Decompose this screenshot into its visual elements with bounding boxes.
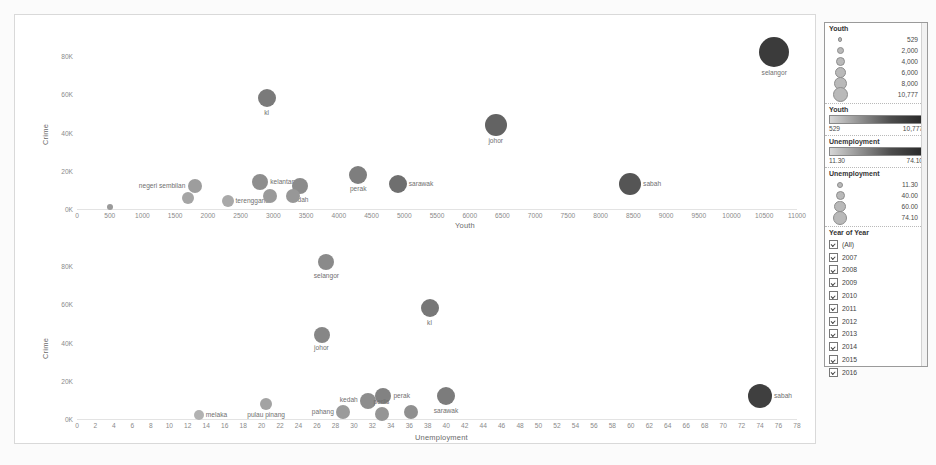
scatter-point[interactable] xyxy=(485,114,507,136)
youth-gradient-min: 529 xyxy=(829,125,840,132)
scatter-point[interactable] xyxy=(222,195,234,207)
checkbox-checked-icon[interactable] xyxy=(829,317,838,326)
checkbox-checked-icon[interactable] xyxy=(829,329,838,338)
scatter-point[interactable] xyxy=(389,175,407,193)
scatter-point-label: sarawak xyxy=(409,180,434,187)
year-filter-item[interactable]: 2013 xyxy=(829,328,923,341)
scatter-point-label: melaka xyxy=(206,411,227,418)
x-tick-label: 5500 xyxy=(430,212,445,219)
scatter-point-label: pulau pinang xyxy=(247,411,285,418)
x-tick-label: 14 xyxy=(203,422,210,429)
year-filter-item[interactable]: 2007 xyxy=(829,251,923,264)
scatter-point[interactable] xyxy=(748,384,772,408)
x-tick-label: 8 xyxy=(149,422,153,429)
size-value-label: 6,000 xyxy=(851,69,923,76)
scatter-point[interactable] xyxy=(437,387,455,405)
scatter-point[interactable] xyxy=(375,407,389,421)
x-tick-label: 4 xyxy=(112,422,116,429)
size-swatch xyxy=(829,211,851,225)
x-tick-label: 2 xyxy=(94,422,98,429)
legend-youth-gradient: Youth 529 10,777 xyxy=(825,104,927,136)
checkbox-checked-icon[interactable] xyxy=(829,304,838,313)
year-filter-item[interactable]: 2011 xyxy=(829,302,923,315)
scatter-point[interactable] xyxy=(336,405,350,419)
x-tick-label: 56 xyxy=(590,422,597,429)
y-tick-label: 60K xyxy=(47,91,73,98)
scatter-point[interactable] xyxy=(314,327,330,343)
x-tick-label: 6000 xyxy=(462,212,477,219)
scatter-point[interactable] xyxy=(188,179,202,193)
scatter-point-label: kedah xyxy=(340,396,358,403)
size-value-label: 4,000 xyxy=(851,58,923,65)
scatter-point[interactable] xyxy=(759,37,789,67)
scatter-point[interactable] xyxy=(318,254,334,270)
x-tick-label: 4500 xyxy=(364,212,379,219)
legend-scrollbar[interactable] xyxy=(921,23,927,366)
scatter-point[interactable] xyxy=(194,410,204,420)
scatter-point-label: perak xyxy=(350,185,367,192)
youth-size-row: 2,000 xyxy=(829,45,923,56)
scatter-point[interactable] xyxy=(349,166,367,184)
year-filter-label: 2011 xyxy=(842,305,857,312)
youth-size-row: 10,777 xyxy=(829,89,923,100)
year-filter-card[interactable]: Year of Year (All)2007200820092010201120… xyxy=(825,227,927,382)
x-tick-label: 2500 xyxy=(233,212,248,219)
x-tick-label: 42 xyxy=(461,422,468,429)
x-tick-label: 16 xyxy=(221,422,228,429)
scatter-point[interactable] xyxy=(404,405,418,419)
year-filter-item[interactable]: 2015 xyxy=(829,353,923,366)
x-tick-label: 26 xyxy=(313,422,320,429)
year-filter-label: 2014 xyxy=(842,343,857,350)
scatter-point[interactable] xyxy=(286,189,300,203)
size-swatch xyxy=(829,57,851,66)
scatter-point[interactable] xyxy=(107,204,113,210)
year-filter-item[interactable]: 2012 xyxy=(829,315,923,328)
year-filter-label: 2012 xyxy=(842,318,857,325)
size-swatch xyxy=(829,182,851,188)
checkbox-checked-icon[interactable] xyxy=(829,368,838,377)
x-tick-label: 64 xyxy=(664,422,671,429)
year-filter-label: 2016 xyxy=(842,369,857,376)
year-filter-label: 2009 xyxy=(842,279,857,286)
scatter-point[interactable] xyxy=(182,192,194,204)
legend-filter-panel[interactable]: Youth 5292,0004,0006,0008,00010,777 Yout… xyxy=(824,22,928,367)
size-value-label: 40.00 xyxy=(851,192,923,199)
scatter-point[interactable] xyxy=(258,89,276,107)
size-value-label: 60.00 xyxy=(851,203,923,210)
x-tick-label: 48 xyxy=(516,422,523,429)
checkbox-checked-icon[interactable] xyxy=(829,278,838,287)
checkbox-checked-icon[interactable] xyxy=(829,265,838,274)
checkbox-checked-icon[interactable] xyxy=(829,291,838,300)
scatter-point[interactable] xyxy=(263,189,277,203)
year-filter-item[interactable]: 2014 xyxy=(829,340,923,353)
checkbox-checked-icon[interactable] xyxy=(829,355,838,364)
unemployment-size-row: 40.00 xyxy=(829,190,923,201)
y-tick-label: 60K xyxy=(47,301,73,308)
x-tick-label: 70 xyxy=(719,422,726,429)
checkbox-checked-icon[interactable] xyxy=(829,342,838,351)
x-tick-label: 78 xyxy=(793,422,800,429)
y-tick-label: 80K xyxy=(47,263,73,270)
scatter-point[interactable] xyxy=(619,173,641,195)
year-filter-label: 2010 xyxy=(842,292,857,299)
scatter-point[interactable] xyxy=(260,398,272,410)
scatter-chart-unemployment-vs-crime[interactable]: Crime Unemployment 024681012141618202224… xyxy=(15,231,815,443)
year-filter-item[interactable]: 2016 xyxy=(829,366,923,379)
year-filter-item[interactable]: 2008 xyxy=(829,264,923,277)
x-tick-label: 20 xyxy=(258,422,265,429)
year-filter-item[interactable]: (All) xyxy=(829,238,923,251)
scatter-point[interactable] xyxy=(252,174,268,190)
charts-frame: Crime Youth 0500100015002000250030003500… xyxy=(14,14,816,444)
year-filter-label: 2013 xyxy=(842,330,857,337)
year-filter-item[interactable]: 2009 xyxy=(829,276,923,289)
year-filter-label: 2008 xyxy=(842,266,857,273)
scatter-point[interactable] xyxy=(421,299,439,317)
x-tick-label: 46 xyxy=(498,422,505,429)
checkbox-checked-icon[interactable] xyxy=(829,253,838,262)
x-tick-label: 1000 xyxy=(135,212,150,219)
checkbox-checked-icon[interactable] xyxy=(829,240,838,249)
scatter-chart-youth-vs-crime[interactable]: Crime Youth 0500100015002000250030003500… xyxy=(15,15,815,231)
x-tick-label: 58 xyxy=(609,422,616,429)
year-filter-item[interactable]: 2010 xyxy=(829,289,923,302)
unemployment-size-row: 11.30 xyxy=(829,179,923,190)
